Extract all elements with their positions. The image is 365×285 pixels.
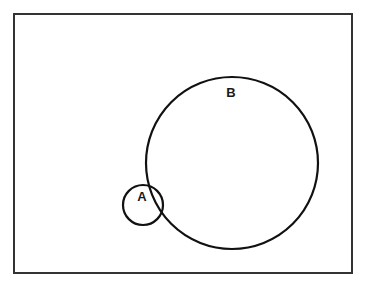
set-a-label: A bbox=[137, 189, 147, 204]
set-b-circle bbox=[146, 77, 318, 249]
venn-diagram: A B bbox=[0, 0, 365, 285]
set-b-label: B bbox=[226, 85, 235, 100]
